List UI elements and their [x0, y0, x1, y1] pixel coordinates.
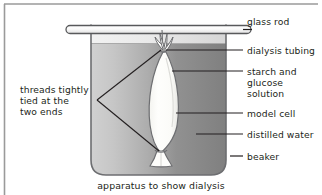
label-threads-line-3: two ends [20, 106, 63, 117]
dialysis-apparatus-figure: glass rod dialysis tubing starch and glu… [0, 0, 322, 195]
figure-caption: apparatus to show dialysis [0, 180, 322, 191]
label-threads-line-2: tied at the [20, 95, 69, 106]
label-beaker: beaker [247, 151, 279, 162]
glass-rod-shape [66, 26, 251, 34]
label-model-cell: model cell [247, 108, 295, 119]
label-starch-line-1: starch and [247, 66, 297, 77]
label-glass-rod: glass rod [247, 16, 289, 27]
label-starch-line-3: solution [247, 88, 284, 99]
label-threads-line-1: threads tightly [20, 84, 89, 95]
label-starch-line-2: glucose [247, 77, 283, 88]
label-distilled-water: distilled water [247, 129, 314, 140]
label-dialysis-tubing: dialysis tubing [247, 45, 315, 56]
